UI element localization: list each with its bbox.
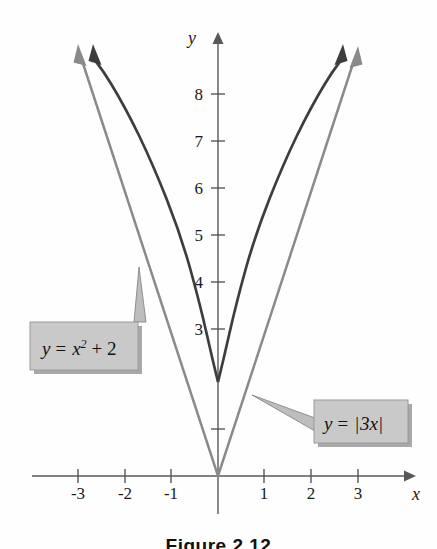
figure-container: -3 -2 -1 1 2 3 x 8 7 6 5 4 3 y [0, 0, 437, 549]
callout-absolute-lhs: y [322, 413, 333, 434]
graph-plot: -3 -2 -1 1 2 3 x 8 7 6 5 4 3 y [0, 0, 437, 549]
callout-parabola[interactable]: y=x2+ 2 [30, 267, 146, 374]
x-tick-label-neg3: -3 [71, 484, 85, 503]
x-tick-label-1: 1 [260, 484, 269, 503]
callout-parabola-equals: = [55, 338, 66, 359]
x-axis: -3 -2 -1 1 2 3 x [32, 469, 420, 504]
x-tick-label-2: 2 [307, 484, 316, 503]
y-tick-label-7: 7 [195, 132, 204, 151]
y-tick-label-3: 3 [195, 320, 204, 339]
callout-parabola-exponent: 2 [81, 337, 87, 351]
y-axis-arrowhead [213, 32, 224, 44]
absolute-right-arrowhead [350, 46, 363, 68]
x-tick-label-neg2: -2 [118, 484, 132, 503]
callout-absolute-inner: 3x [359, 413, 379, 434]
figure-caption: Figure 2.12 [0, 536, 437, 549]
y-tick-label-8: 8 [195, 85, 204, 104]
x-tick-label-3: 3 [354, 484, 363, 503]
absolute-left-arrowhead [74, 44, 87, 66]
callout-absolute-bar-left: | [355, 413, 359, 434]
parabola-left-arrowhead [89, 44, 102, 65]
parabola-right-arrowhead [335, 44, 348, 65]
y-tick-label-5: 5 [195, 226, 204, 245]
callout-absolute-bar-right: | [379, 413, 383, 434]
callout-parabola-leader [134, 267, 146, 322]
x-tick-label-neg1: -1 [164, 484, 178, 503]
y-axis-label: y [186, 28, 196, 48]
callout-parabola-lhs: y [40, 338, 51, 359]
callout-absolute-equals: = [337, 413, 348, 434]
callout-parabola-plus: + 2 [92, 338, 117, 359]
callout-absolute-leader [252, 395, 315, 431]
callout-absolute[interactable]: y=|3x| [252, 395, 412, 447]
x-axis-label: x [411, 484, 420, 504]
y-tick-label-6: 6 [195, 179, 204, 198]
x-axis-arrowhead [404, 471, 416, 482]
